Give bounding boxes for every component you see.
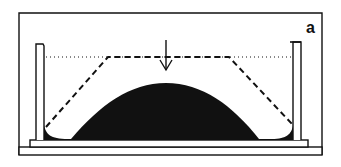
panel-label: a <box>306 19 315 36</box>
diagram: a <box>0 0 341 167</box>
right-wall <box>293 42 301 140</box>
right-meniscus <box>272 126 293 139</box>
left-wall <box>36 44 44 140</box>
down-arrow-icon <box>160 40 172 70</box>
left-meniscus <box>44 125 68 139</box>
dome <box>71 83 259 139</box>
inner-plate <box>30 140 308 147</box>
base-plate <box>19 147 322 155</box>
